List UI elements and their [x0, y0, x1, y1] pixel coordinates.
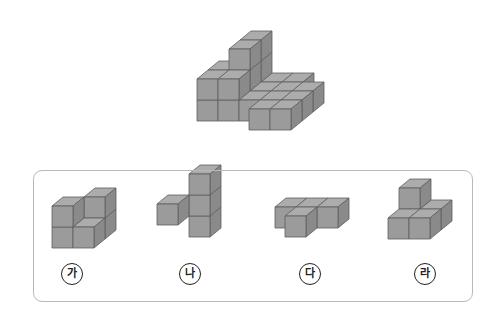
option-label-ga[interactable]: 가	[61, 263, 83, 285]
options-box	[33, 170, 473, 302]
option-label-ra[interactable]: 라	[414, 263, 436, 285]
target-figure	[197, 31, 324, 130]
cube-front-face	[229, 49, 250, 70]
cube-front-face	[197, 79, 218, 100]
cube	[197, 100, 218, 121]
option-label-na[interactable]: 나	[179, 263, 201, 285]
cube-front-face	[218, 100, 239, 121]
cube-front-face	[218, 79, 239, 100]
cube-front-face	[270, 109, 291, 130]
cube-front-face	[197, 100, 218, 121]
cube	[218, 100, 239, 121]
option-label-da[interactable]: 다	[299, 263, 321, 285]
cube-front-face	[249, 109, 270, 130]
